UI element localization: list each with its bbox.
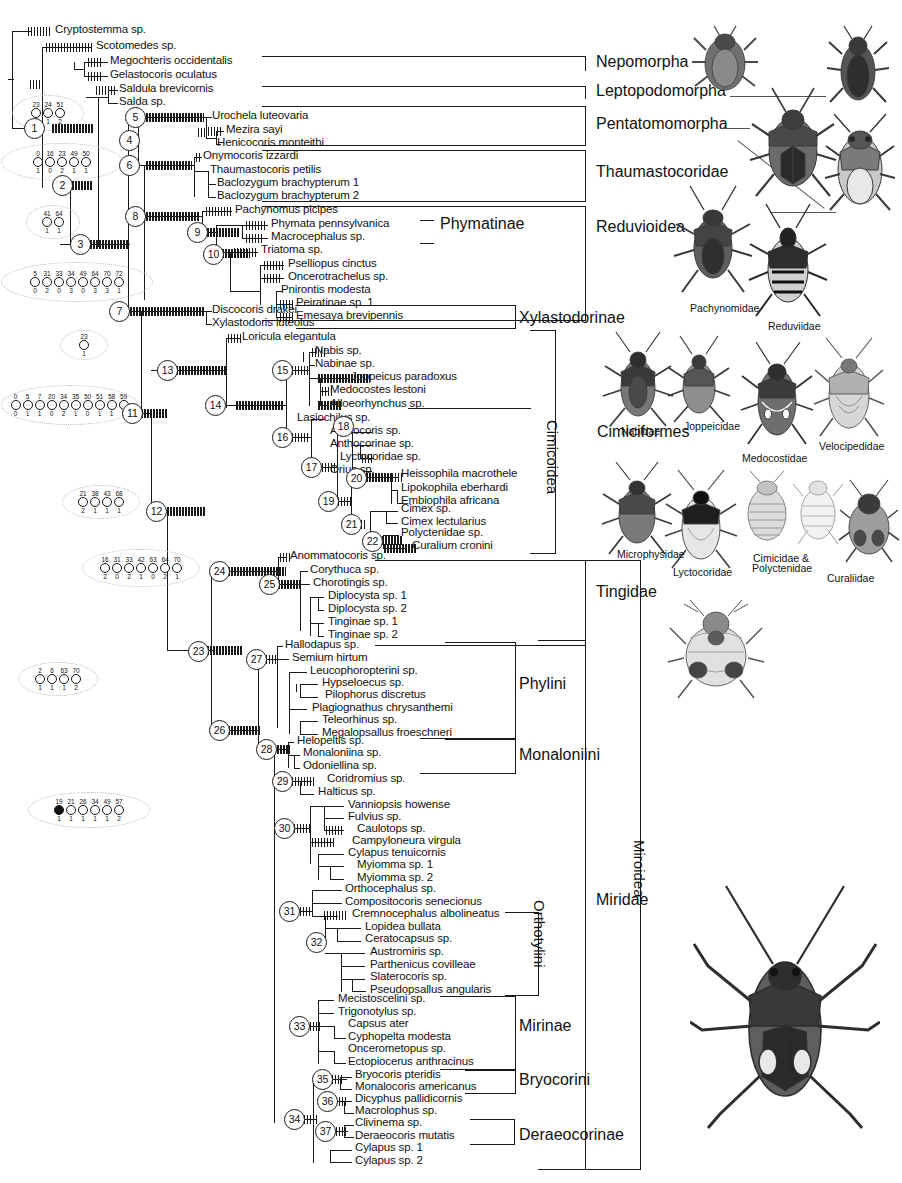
taxon-label: Cylapus tenuicornis [348, 847, 446, 858]
character-value: 0 [50, 410, 54, 417]
state-circle [43, 108, 53, 118]
character-value: 0 [14, 410, 18, 417]
state-circle [90, 497, 100, 507]
character-value: 2 [74, 684, 78, 691]
character-value: 0 [57, 287, 61, 294]
character-state: 00 [10, 393, 21, 417]
character-state: 721 [114, 270, 125, 294]
node-number-13: 13 [157, 360, 178, 381]
character-value: 2 [62, 410, 66, 417]
taxon-label: Pilophorus discretus [325, 689, 426, 700]
character-value: 2 [127, 573, 131, 580]
bracket-monaloniini [420, 738, 516, 774]
taxon-label: Myiomma sp. 1 [357, 859, 433, 870]
character-value: 3 [105, 287, 109, 294]
taxon-label: Odoniellina sp. [303, 760, 377, 771]
taxon-label: Pselliopus cinctus [288, 258, 377, 269]
taxon-label: Heissophila macrothele [401, 468, 517, 479]
state-circle [114, 805, 124, 815]
figure-caption: Nabidae [621, 425, 660, 437]
character-state: 160 [45, 150, 56, 174]
figure-caption: Reduviidae [768, 320, 821, 332]
taxon-label: Onymocoris izzardi [203, 150, 298, 161]
character-value: 0 [86, 410, 90, 417]
character-state: 232 [57, 150, 68, 174]
state-circle [54, 805, 64, 815]
character-number: 23 [32, 101, 39, 108]
node-number-9: 9 [187, 222, 208, 243]
state-circle [35, 400, 45, 410]
state-circle [90, 277, 100, 287]
taxon-label: Caulotops sp. [357, 823, 425, 834]
bug-microphysidae [600, 460, 674, 558]
taxon-label: Cyphopelta modesta [348, 1031, 451, 1042]
taxon-label: Baclozygum brachypterum 1 [217, 177, 359, 188]
taxon-label: Alloeorhynchus sp. [330, 398, 424, 409]
character-number: 20 [48, 393, 55, 400]
character-state: 71 [34, 393, 45, 417]
state-circle [79, 340, 89, 350]
character-number: 0 [36, 150, 40, 157]
character-state: 342 [58, 393, 69, 417]
taxon-label: Pnirontis modesta [281, 284, 371, 295]
node-number-21: 21 [341, 514, 362, 535]
state-circle [11, 400, 21, 410]
character-number: 33 [55, 270, 62, 277]
node-number-18: 18 [333, 416, 354, 437]
character-number: 21 [79, 490, 86, 497]
taxon-label: Loricula elegantula [242, 331, 336, 342]
character-state: 381 [90, 490, 101, 514]
character-state: 341 [90, 798, 101, 822]
bracket-deraeocorinae [470, 1119, 515, 1145]
taxon-label: Pachynomus picipes [235, 204, 338, 215]
node-number-4: 4 [119, 130, 140, 151]
character-number: 70 [173, 556, 180, 563]
bracket-phylini [445, 642, 516, 740]
character-state: 421 [136, 556, 147, 580]
character-value: 0 [115, 573, 119, 580]
node-number-14: 14 [205, 395, 226, 416]
state-circle [107, 400, 117, 410]
node-number-27: 27 [246, 649, 267, 670]
character-number: 59 [120, 393, 127, 400]
node-number-8: 8 [125, 206, 146, 227]
taxon-label: Salda sp. [119, 96, 166, 107]
taxon-label: Phymata pennsylvanica [271, 218, 389, 229]
clade-label: Pentatomomorpha [596, 115, 728, 133]
clade-label: Bryocorini [519, 1071, 590, 1089]
taxon-label: Diplocysta sp. 1 [328, 590, 407, 601]
node-number-17: 17 [301, 457, 322, 478]
node-number-25: 25 [259, 574, 280, 595]
state-circle [55, 108, 65, 118]
taxon-label: Monaloniina sp. [303, 747, 381, 758]
state-circle [95, 400, 105, 410]
clade-label: Mirinae [519, 1017, 571, 1035]
character-number: 23 [80, 333, 87, 340]
node-number-30: 30 [274, 818, 295, 839]
character-state: 501 [81, 150, 92, 174]
character-state: 631 [59, 667, 70, 691]
taxon-label: Hallodapus sp. [285, 639, 359, 650]
state-circle [31, 108, 41, 118]
state-circle [30, 277, 40, 287]
character-value: 1 [36, 167, 40, 174]
taxon-label: Slaterocoris sp. [370, 971, 447, 982]
character-value: 1 [105, 815, 109, 822]
state-circle [54, 277, 64, 287]
character-number: 50 [84, 393, 91, 400]
taxon-label: Nabinae sp. [315, 358, 375, 369]
taxon-label: Semium hirtum [292, 652, 367, 663]
bracket-leptopodomorpha [262, 86, 586, 99]
character-value: 1 [117, 287, 121, 294]
character-state: 581 [106, 393, 117, 417]
bracket-phymatinae [420, 220, 434, 244]
clade-label: Nepomorpha [596, 53, 689, 71]
figure-caption: Polyctenidae [752, 562, 812, 574]
character-value: 3 [69, 287, 73, 294]
figure-caption: Joppeicidae [684, 420, 740, 432]
character-number: 63 [149, 556, 156, 563]
clade-label: Miroidea [631, 840, 648, 898]
state-circle [59, 400, 69, 410]
taxon-label: Austromiris sp. [370, 946, 444, 957]
character-number: 64 [55, 210, 62, 217]
